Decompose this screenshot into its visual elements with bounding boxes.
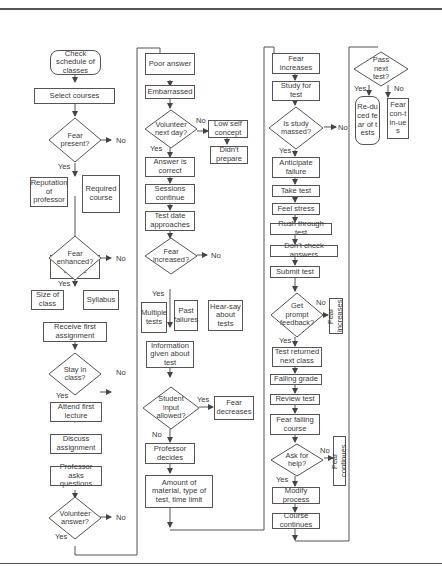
anticipate-failure-step: Anticipate failure (272, 157, 320, 178)
course-continues-step: Course continues (272, 513, 320, 529)
study-massed-decision: Is study massed? (268, 106, 324, 150)
fear-continues-box: Fear con-tin-ues (387, 98, 409, 139)
study-for-test-step: Study for test (272, 81, 320, 101)
no-label: No (316, 299, 326, 307)
low-self-concept-box: Low self concept (208, 120, 248, 138)
stay-in-class-decision: Stay in class? (48, 352, 102, 396)
yes-label: Yes (354, 85, 366, 93)
no-label: No (211, 252, 221, 260)
amount-of-material-step: Amount of material, type of test, time l… (145, 475, 213, 508)
failing-grade-step: Failing grade (270, 374, 322, 385)
yes-label: Yes (58, 280, 70, 288)
didnt-prepare-box: Didn't prepare (210, 146, 248, 164)
feel-stress-step: Feel stress (272, 203, 320, 215)
no-label: No (116, 369, 126, 377)
fear-continues-side-box: Fear continues (333, 436, 346, 486)
past-failures-box: Past failures (174, 300, 198, 331)
fear-increases-side-box: Fear increases (329, 298, 343, 334)
fear-decreases-box: Fear decreases (214, 396, 254, 420)
answer-is-correct-step: Answer is correct (145, 157, 195, 177)
reduced-fear-terminal: Re-duced fear of tests (355, 96, 380, 145)
information-given-step: Information given about test (146, 341, 194, 368)
review-test-step: Review test (270, 394, 320, 405)
attend-first-lecture-step: Attend first lecture (50, 402, 102, 422)
fear-failing-course-step: Fear failing course (270, 414, 320, 435)
submit-test-step: Submit test (270, 266, 320, 278)
yes-label: Yes (279, 147, 291, 155)
fear-increased-decision: Fear increased? (144, 237, 198, 275)
required-course-box: Required course (82, 175, 120, 213)
volunteer-next-day-decision: Volunteer next day? (144, 109, 198, 149)
hearsay-about-tests-box: Hear-say about tests (208, 300, 243, 331)
syllabus-box: Syllabus (83, 290, 119, 310)
test-returned-step: Test returned next class (272, 347, 322, 367)
embarrassed-step: Embarrassed (145, 85, 195, 99)
size-of-class-box: Size of class (31, 290, 64, 310)
professor-asks-questions-step: Professor asks questions (50, 466, 102, 486)
test-date-approaches-step: Test date approaches (145, 211, 195, 231)
yes-label: Yes (276, 476, 288, 484)
take-test-step: Take test (272, 185, 320, 197)
no-label: No (116, 255, 126, 263)
discuss-assignment-step: Discuss assignment (50, 434, 102, 454)
start-check-schedule: Check schedule of classes (50, 50, 101, 75)
fear-present-decision: Fear present? (48, 117, 102, 163)
multiple-tests-box: Multiple tests (141, 302, 167, 333)
ask-for-help-decision: Ask for help? (270, 443, 324, 477)
modify-process-step: Modify process (272, 487, 320, 504)
yes-label: Yes (58, 163, 70, 171)
yes-label: Yes (55, 533, 67, 541)
dont-check-answers-step: Don't check answers (270, 245, 338, 257)
reputation-of-professor-box: Reputation of professor (30, 177, 68, 207)
no-label: No (338, 124, 348, 132)
no-label: No (320, 447, 330, 455)
student-input-decision: Student input allowed? (142, 386, 200, 430)
no-label: No (196, 117, 206, 125)
no-label: No (394, 85, 404, 93)
yes-label: Yes (152, 290, 164, 298)
no-label: No (152, 431, 162, 439)
yes-label: Yes (279, 337, 291, 345)
professor-decides-step: Professor decides (145, 443, 195, 464)
receive-first-assignment-step: Receive first assignment (43, 322, 107, 342)
no-label: No (116, 137, 126, 145)
poor-answer-step: Poor answer (145, 53, 195, 75)
fear-enhanced-decision: Fear enhanced? (48, 235, 102, 281)
select-courses-step: Select courses (34, 88, 115, 104)
no-label: No (116, 514, 126, 522)
sessions-continue-step: Sessions continue (145, 184, 195, 204)
rush-through-test-step: Rush through test (270, 223, 332, 235)
pass-next-test-decision: Pass next test? (353, 51, 409, 87)
yes-label: Yes (56, 392, 68, 400)
yes-label: Yes (150, 145, 162, 153)
fear-increases-step: Fear increases (272, 53, 320, 74)
yes-label: Yes (197, 396, 209, 404)
